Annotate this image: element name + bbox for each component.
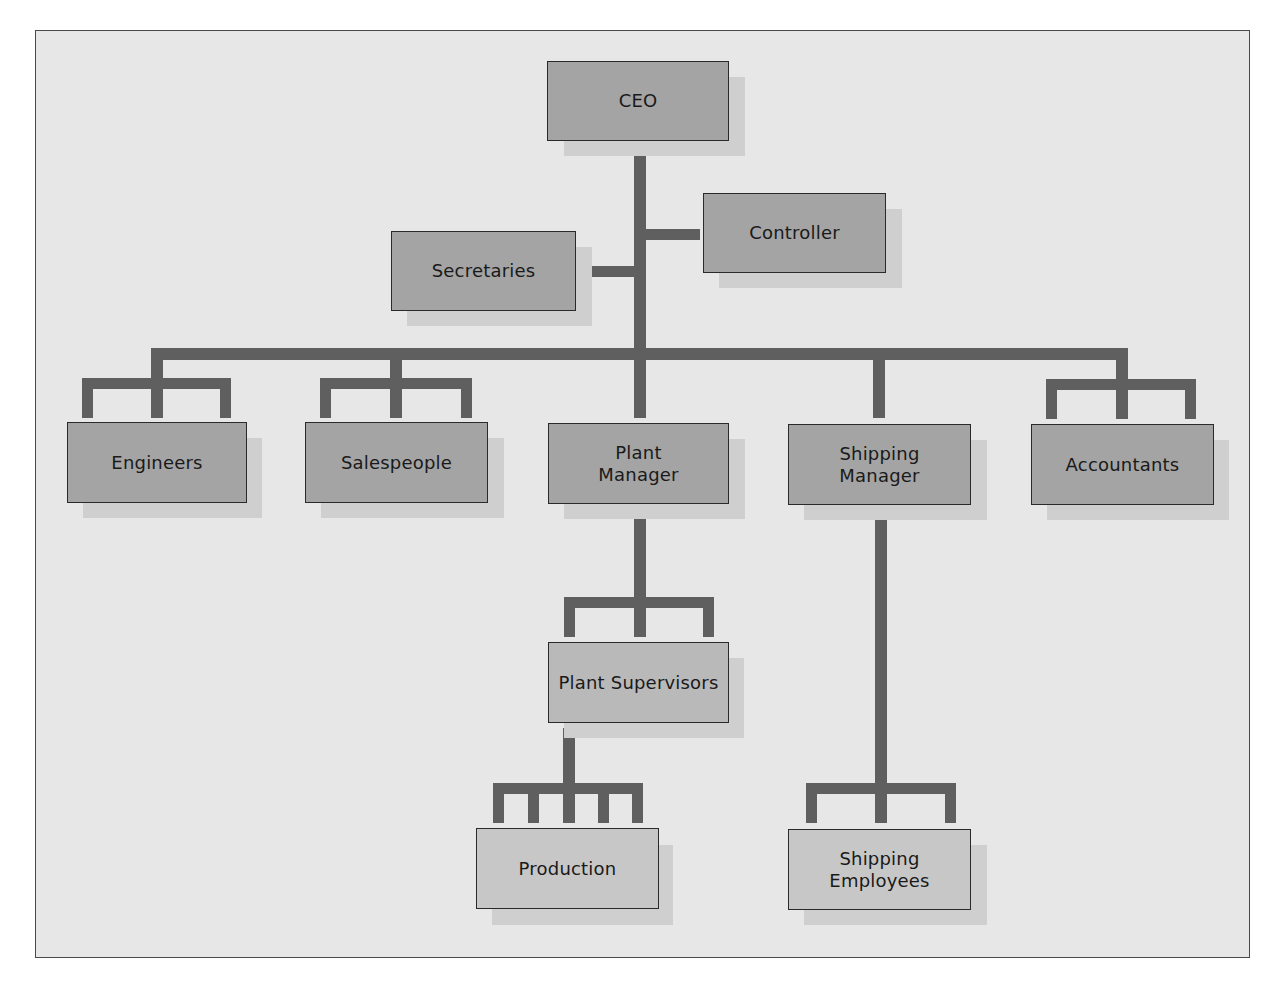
node-production-label: Production [519, 858, 617, 880]
node-shipping-employees-label: Shipping Employees [829, 848, 929, 892]
connector-plant-supervisors-prong [634, 597, 646, 637]
connector-plant-manager-drop [634, 348, 646, 418]
connector-controller [646, 229, 700, 240]
node-engineers: Engineers [67, 422, 247, 503]
node-plant-manager: Plant Manager [548, 423, 729, 504]
connector-production-prong [563, 783, 575, 823]
connector-production-prong [598, 783, 609, 823]
node-engineers-label: Engineers [111, 452, 202, 474]
connector-accountants-prong [1116, 379, 1128, 419]
connector-salespeople-prong [390, 378, 402, 418]
node-controller: Controller [703, 193, 886, 273]
connector-shipping-employees-drop [875, 510, 887, 792]
node-controller-label: Controller [749, 222, 840, 244]
connector-engineers-prong [82, 378, 93, 418]
connector-production-prong [493, 783, 504, 823]
node-accountants: Accountants [1031, 424, 1214, 505]
connector-production-prong [528, 783, 539, 823]
node-salespeople: Salespeople [305, 422, 488, 503]
connector-ceo-trunk [634, 144, 646, 360]
node-ceo: CEO [547, 61, 729, 141]
connector-shipping-employees-prong [945, 783, 956, 823]
node-shipping-manager-label: Shipping Manager [839, 443, 919, 487]
node-shipping-employees: Shipping Employees [788, 829, 971, 910]
connector-shipping-employees-prong [806, 783, 817, 823]
node-shipping-manager: Shipping Manager [788, 424, 971, 505]
node-production: Production [476, 828, 659, 909]
connector-production-prong [632, 783, 643, 823]
connector-shipping-manager-drop [873, 348, 885, 418]
node-salespeople-label: Salespeople [341, 452, 452, 474]
node-secretaries: Secretaries [391, 231, 576, 311]
node-ceo-label: CEO [619, 90, 658, 112]
connector-plant-supervisors-prong [564, 597, 575, 637]
connector-salespeople-prong [320, 378, 331, 418]
node-plant-supervisors: Plant Supervisors [548, 642, 729, 723]
connector-engineers-prong [220, 378, 231, 418]
connector-shipping-employees-prong [875, 783, 887, 823]
connector-plant-supervisors-prong [703, 597, 714, 637]
node-plant-supervisors-label: Plant Supervisors [558, 672, 718, 694]
node-plant-manager-label: Plant Manager [598, 442, 678, 486]
connector-engineers-prong [151, 378, 163, 418]
connector-salespeople-prong [461, 378, 472, 418]
node-accountants-label: Accountants [1066, 454, 1180, 476]
node-secretaries-label: Secretaries [432, 260, 536, 282]
connector-accountants-prong [1046, 379, 1057, 419]
connector-accountants-prong [1185, 379, 1196, 419]
